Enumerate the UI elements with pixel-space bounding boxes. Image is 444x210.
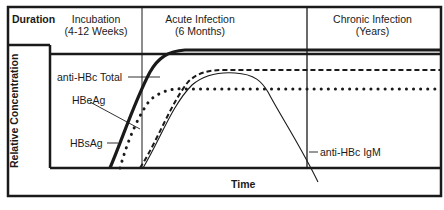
y-axis-label: Relative Concentration <box>8 54 20 168</box>
curve-anti-hbc-total <box>140 70 441 168</box>
phase-acute-name: Acute Infection <box>150 13 250 25</box>
phase-chronic-period: (Years) <box>305 25 440 37</box>
label-hbeag: HBeAg <box>72 94 105 106</box>
phase-incubation: Incubation (4-12 Weeks) <box>56 13 136 37</box>
leader-hbeag <box>90 102 140 129</box>
phase-incubation-period: (4-12 Weeks) <box>56 25 136 37</box>
hepatitis-b-serology-diagram: Duration Incubation (4-12 Weeks) Acute I… <box>0 0 444 210</box>
label-anti-hbc-total: anti-HBc Total <box>57 71 122 83</box>
duration-label: Duration <box>12 13 55 25</box>
label-anti-hbc-igm: anti-HBc IgM <box>320 146 381 158</box>
curve-hbsag <box>110 50 441 168</box>
phase-chronic-name: Chronic Infection <box>305 13 440 25</box>
curve-hbeag <box>120 89 441 168</box>
label-hbsag: HBsAg <box>70 137 103 149</box>
phase-acute: Acute Infection (6 Months) <box>150 13 250 37</box>
phase-incubation-name: Incubation <box>56 13 136 25</box>
phase-acute-period: (6 Months) <box>150 25 250 37</box>
x-axis-label: Time <box>231 178 255 190</box>
phase-chronic: Chronic Infection (Years) <box>305 13 440 37</box>
